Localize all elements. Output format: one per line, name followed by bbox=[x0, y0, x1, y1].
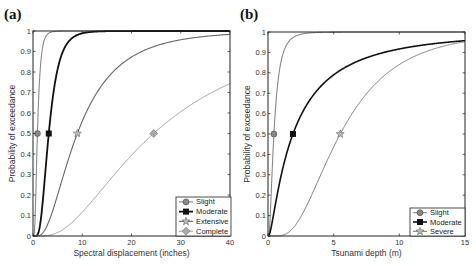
y-tick-label: 0.9 bbox=[256, 48, 266, 57]
y-tick-label: 0.7 bbox=[21, 88, 31, 97]
x-tick-label: 10 bbox=[78, 238, 86, 247]
panel-label: (b) bbox=[240, 6, 258, 23]
y-axis-label: Probability of exceedance bbox=[7, 85, 17, 183]
legend-entry-extensive: Extensive bbox=[196, 217, 229, 226]
legend: SlightModerateSevere bbox=[410, 208, 465, 236]
y-tick-label: 0.2 bbox=[256, 191, 266, 200]
x-axis-label: Spectral displacement (inches) bbox=[73, 248, 189, 258]
y-tick-label: 1 bbox=[262, 28, 266, 37]
y-tick-label: 0.4 bbox=[21, 150, 31, 159]
x-tick-label: 40 bbox=[226, 238, 234, 247]
chart-panel-b: (b)00.10.20.30.40.50.60.70.80.91051015Ts… bbox=[240, 6, 469, 258]
y-tick-label: 0.5 bbox=[21, 129, 31, 138]
legend-slight-marker-icon bbox=[417, 210, 423, 216]
moderate-marker-icon bbox=[46, 131, 52, 137]
y-tick-label: 0.1 bbox=[256, 211, 266, 220]
slight-marker-icon bbox=[271, 131, 277, 137]
x-axis-label: Tsunami depth (m) bbox=[331, 248, 402, 258]
curve-moderate bbox=[268, 41, 465, 236]
y-tick-label: 0.9 bbox=[21, 47, 31, 56]
legend-entry-complete: Complete bbox=[196, 227, 228, 236]
legend-entry-moderate: Moderate bbox=[196, 207, 228, 216]
legend-entry-moderate: Moderate bbox=[430, 218, 462, 227]
chart-panel-a: (a)00.10.20.30.40.50.60.70.80.9101020304… bbox=[4, 6, 234, 258]
plot-frame bbox=[268, 32, 465, 236]
y-tick-label: 0.2 bbox=[21, 191, 31, 200]
y-tick-label: 0.8 bbox=[21, 68, 31, 77]
curve-slight bbox=[268, 32, 465, 236]
fragility-figure: (a)00.10.20.30.40.50.60.70.80.9101020304… bbox=[0, 0, 476, 266]
curve-severe bbox=[268, 42, 465, 236]
y-tick-label: 0.7 bbox=[256, 89, 266, 98]
legend-moderate-marker-icon bbox=[183, 209, 189, 215]
legend-entry-severe: Severe bbox=[430, 227, 454, 236]
y-tick-label: 0.6 bbox=[256, 109, 266, 118]
x-tick-label: 10 bbox=[395, 238, 403, 247]
y-tick-label: 0.4 bbox=[256, 150, 266, 159]
x-tick-label: 0 bbox=[266, 238, 270, 247]
x-tick-label: 0 bbox=[31, 238, 35, 247]
legend-moderate-marker-icon bbox=[417, 219, 423, 225]
legend-slight-marker-icon bbox=[183, 199, 189, 205]
y-tick-label: 0.1 bbox=[21, 211, 31, 220]
y-axis-label: Probability of exceedance bbox=[242, 85, 252, 183]
legend-entry-slight: Slight bbox=[196, 197, 216, 206]
y-tick-label: 0.5 bbox=[256, 130, 266, 139]
legend-entry-slight: Slight bbox=[430, 208, 450, 217]
x-tick-label: 20 bbox=[127, 238, 135, 247]
y-tick-label: 0.8 bbox=[256, 68, 266, 77]
severe-marker-icon bbox=[336, 130, 344, 138]
x-tick-label: 15 bbox=[461, 238, 469, 247]
panel-label: (a) bbox=[4, 6, 22, 23]
y-tick-label: 1 bbox=[27, 27, 31, 36]
y-tick-label: 0.6 bbox=[21, 109, 31, 118]
extensive-marker-icon bbox=[73, 129, 81, 137]
y-tick-label: 0.3 bbox=[256, 170, 266, 179]
x-tick-label: 30 bbox=[177, 238, 185, 247]
legend: SlightModerateExtensiveComplete bbox=[176, 197, 231, 236]
y-tick-label: 0.3 bbox=[21, 170, 31, 179]
moderate-marker-icon bbox=[290, 131, 296, 137]
x-tick-label: 5 bbox=[332, 238, 336, 247]
